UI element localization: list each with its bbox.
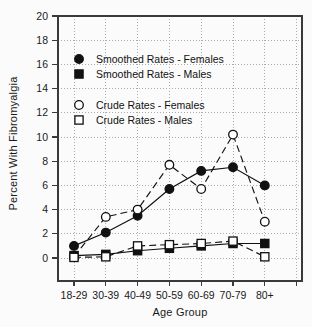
svg-text:12: 12 <box>36 106 48 118</box>
open-square-marker <box>102 253 110 261</box>
legend-item-crude-males: Crude Rates - Males <box>72 112 224 127</box>
legend-item-smoothed-females: Smoothed Rates - Females <box>72 51 224 66</box>
plot-area: 0246810121416182018-2930-3940-4950-5960-… <box>0 0 312 327</box>
open-square-marker <box>75 115 83 123</box>
svg-text:70-79: 70-79 <box>220 289 247 301</box>
legend-label: Smoothed Rates - Females <box>96 53 224 65</box>
filled-circle-marker <box>261 181 270 190</box>
x-axis-title: Age Group <box>58 306 302 318</box>
fibromyalgia-prevalence-chart: 0246810121416182018-2930-3940-4950-5960-… <box>0 0 312 327</box>
open-square-marker <box>197 239 205 247</box>
filled-circle-marker <box>102 228 111 237</box>
open-circle-marker <box>197 185 206 194</box>
legend-item-smoothed-males: Smoothed Rates - Males <box>72 66 224 81</box>
svg-text:6: 6 <box>42 179 48 191</box>
svg-text:20: 20 <box>36 10 48 22</box>
open-square-marker <box>165 241 173 249</box>
svg-text:14: 14 <box>36 82 48 94</box>
filled-circle-marker <box>75 54 84 63</box>
filled-circle-icon <box>72 52 88 66</box>
svg-text:60-69: 60-69 <box>188 289 215 301</box>
filled-circle-marker <box>229 163 238 172</box>
svg-text:4: 4 <box>42 203 48 215</box>
open-circle-marker <box>261 217 270 226</box>
svg-text:18: 18 <box>36 34 48 46</box>
open-square-marker <box>70 253 78 261</box>
legend: Smoothed Rates - Females Smoothed Rates … <box>72 51 224 127</box>
filled-square-icon <box>72 67 88 81</box>
svg-text:8: 8 <box>42 155 48 167</box>
filled-circle-marker <box>165 185 174 194</box>
series-markers-smoothed-rates-females <box>70 163 269 250</box>
y-tick-labels: 02468101214161820 <box>36 10 48 264</box>
open-circle-marker <box>75 100 84 109</box>
filled-square-marker <box>75 69 83 77</box>
legend-label: Smoothed Rates - Males <box>96 68 212 80</box>
svg-text:40-49: 40-49 <box>124 289 151 301</box>
open-square-marker <box>229 237 237 245</box>
open-circle-marker <box>102 213 111 222</box>
x-tick-labels: 18-2930-3940-4950-5960-6970-7980+ <box>61 289 274 301</box>
x-ticks <box>74 281 297 286</box>
open-square-marker <box>134 242 142 250</box>
svg-text:50-59: 50-59 <box>156 289 183 301</box>
svg-text:80+: 80+ <box>256 289 274 301</box>
svg-text:0: 0 <box>42 252 48 264</box>
legend-item-crude-females: Crude Rates - Females <box>72 97 224 112</box>
open-circle-marker <box>133 205 142 214</box>
open-circle-icon <box>72 98 88 112</box>
open-circle-marker <box>165 161 174 170</box>
y-axis-title: Percent With Fibromyalgia <box>7 24 22 264</box>
svg-text:10: 10 <box>36 131 48 143</box>
svg-text:30-39: 30-39 <box>92 289 119 301</box>
filled-square-marker <box>261 239 269 247</box>
open-circle-marker <box>229 130 238 139</box>
svg-text:18-29: 18-29 <box>61 289 88 301</box>
filled-circle-marker <box>70 242 79 251</box>
svg-text:2: 2 <box>42 227 48 239</box>
legend-label: Crude Rates - Males <box>96 114 192 126</box>
open-square-marker <box>261 253 269 261</box>
y-ticks <box>52 16 58 258</box>
svg-text:16: 16 <box>36 58 48 70</box>
legend-label: Crude Rates - Females <box>96 99 205 111</box>
filled-circle-marker <box>197 167 206 176</box>
open-square-icon <box>72 113 88 127</box>
